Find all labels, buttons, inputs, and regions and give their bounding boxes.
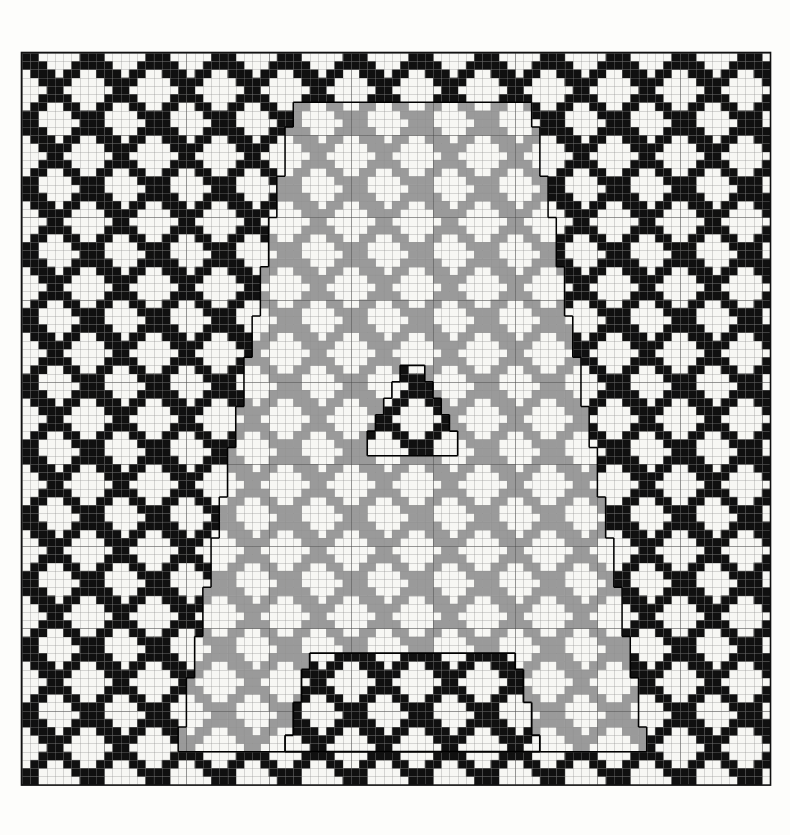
- pattern-sheet: Counted Cross-Stitch Chart — Pagoda / Te…: [0, 0, 790, 835]
- cross-stitch-chart-canvas[interactable]: [0, 0, 790, 835]
